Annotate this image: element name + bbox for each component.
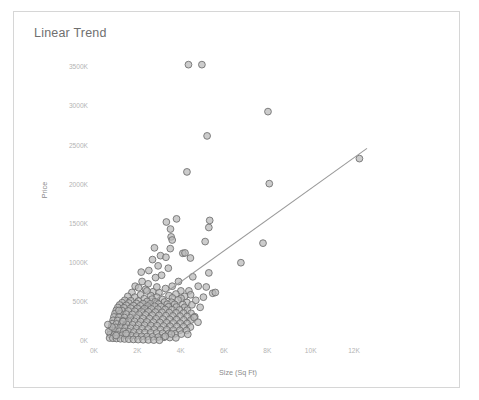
data-point[interactable] (195, 319, 202, 326)
data-point[interactable] (173, 215, 180, 222)
data-point[interactable] (202, 238, 209, 245)
data-point[interactable] (167, 245, 174, 252)
y-axis-tick-label: 500K (73, 298, 89, 305)
x-axis-tick-label: 8K (263, 347, 272, 354)
data-point[interactable] (212, 289, 219, 296)
data-point[interactable] (199, 61, 206, 68)
data-point[interactable] (151, 244, 158, 251)
data-point[interactable] (182, 250, 189, 257)
y-axis-title: Price (40, 182, 49, 198)
data-point[interactable] (205, 269, 212, 276)
x-axis-tick-label: 12K (348, 347, 360, 354)
data-point[interactable] (205, 224, 212, 231)
data-point[interactable] (143, 287, 150, 294)
data-point[interactable] (204, 132, 211, 139)
data-point[interactable] (238, 259, 245, 266)
x-axis-tick-label: 6K (220, 347, 229, 354)
chart-card: Linear Trend 0K500K1000K1500K2000K2500K3… (13, 11, 460, 388)
data-point[interactable] (184, 331, 191, 338)
data-point[interactable] (266, 180, 273, 187)
data-point[interactable] (184, 169, 191, 176)
data-point[interactable] (152, 274, 159, 281)
y-axis-tick-label: 2000K (69, 181, 89, 188)
data-point[interactable] (200, 294, 207, 301)
x-axis-tick-label: 0K (90, 347, 99, 354)
x-axis-tick-label: 10K (305, 347, 317, 354)
data-point[interactable] (153, 284, 160, 291)
data-point[interactable] (168, 331, 175, 338)
data-point[interactable] (138, 269, 145, 276)
x-axis-tick-group: 0K2K4K6K8K10K12K (90, 347, 361, 354)
y-axis-tick-label: 0K (80, 337, 89, 344)
trend-line (114, 148, 368, 330)
data-point[interactable] (356, 155, 363, 162)
y-axis-tick-label: 1500K (69, 220, 89, 227)
data-point[interactable] (135, 284, 142, 291)
data-point[interactable] (149, 256, 156, 263)
data-point[interactable] (195, 283, 202, 290)
x-axis-title: Size (Sq Ft) (219, 368, 257, 377)
y-axis-tick-group: 0K500K1000K1500K2000K2500K3000K3500K (69, 63, 89, 344)
data-point[interactable] (187, 255, 194, 262)
data-point[interactable] (260, 240, 267, 247)
data-point[interactable] (163, 219, 170, 226)
y-axis-tick-label: 3500K (69, 63, 89, 70)
data-point[interactable] (265, 108, 272, 115)
data-point[interactable] (192, 297, 199, 304)
scatter-plot: 0K500K1000K1500K2000K2500K3000K3500K 0K2… (14, 12, 461, 389)
data-point[interactable] (167, 226, 174, 233)
data-point[interactable] (169, 237, 176, 244)
data-point[interactable] (197, 304, 204, 311)
y-axis-tick-label: 3000K (69, 102, 89, 109)
data-point[interactable] (163, 254, 170, 261)
x-axis-tick-label: 2K (133, 347, 142, 354)
data-point[interactable] (113, 332, 120, 339)
data-point[interactable] (145, 267, 152, 274)
data-point[interactable] (123, 330, 130, 337)
x-axis-tick-label: 4K (177, 347, 186, 354)
y-axis-tick-label: 2500K (69, 142, 89, 149)
data-point[interactable] (203, 284, 210, 291)
data-point[interactable] (155, 262, 162, 269)
data-point-group (104, 61, 362, 343)
data-point[interactable] (185, 61, 192, 68)
data-point[interactable] (165, 265, 172, 272)
data-point[interactable] (116, 307, 123, 314)
data-point[interactable] (206, 217, 213, 224)
y-axis-tick-label: 1000K (69, 259, 89, 266)
data-point[interactable] (104, 321, 111, 328)
